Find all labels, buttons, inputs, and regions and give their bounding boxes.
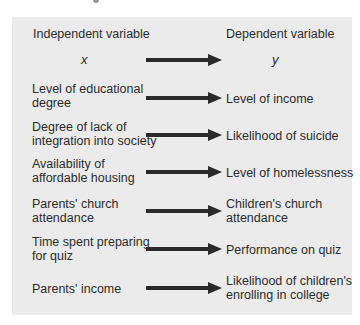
dependent-variable-cell: Likelihood of children's enrolling in co…	[226, 274, 352, 302]
cropped-heading-remnant	[93, 0, 99, 3]
independent-variable-cell: Degree of lack of integration into socie…	[32, 120, 156, 148]
independent-line-1: Level of educational	[32, 82, 143, 96]
symbol-y: y	[272, 53, 279, 67]
arrow-right-icon	[146, 54, 222, 66]
arrow-right-icon	[146, 166, 222, 178]
independent-variable-cell: Parents' income	[32, 282, 121, 296]
independent-variable-header: Independent variable	[33, 27, 150, 41]
dependent-line-1: Performance on quiz	[226, 243, 341, 257]
dependent-variable-cell: Level of income	[226, 92, 314, 106]
dependent-variable-cell: Level of homelessness	[226, 166, 353, 180]
independent-line-2: degree	[32, 96, 143, 110]
dependent-variable-cell: Likelihood of suicide	[226, 129, 339, 143]
dependent-line-2: enrolling in college	[226, 288, 352, 302]
variables-diagram-panel: Independent variable Dependent variable …	[12, 17, 352, 315]
dependent-line-1: Children's church	[226, 197, 322, 211]
dependent-variable-header: Dependent variable	[226, 27, 334, 41]
independent-line-1: Parents' income	[32, 282, 121, 296]
arrow-right-icon	[146, 129, 222, 141]
dependent-line-1: Likelihood of children's	[226, 274, 352, 288]
independent-variable-cell: Parents' church attendance	[32, 197, 118, 225]
arrow-right-icon	[146, 205, 222, 217]
independent-line-2: integration into society	[32, 134, 156, 148]
symbol-x: x	[81, 53, 88, 67]
arrow-right-icon	[146, 282, 222, 294]
independent-variable-cell: Time spent preparing for quiz	[32, 235, 150, 263]
dependent-line-1: Level of homelessness	[226, 166, 353, 180]
independent-line-2: affordable housing	[32, 171, 135, 185]
independent-line-2: for quiz	[32, 249, 150, 263]
dependent-line-1: Level of income	[226, 92, 314, 106]
arrow-right-icon	[146, 243, 222, 255]
independent-line-1: Time spent preparing	[32, 235, 150, 249]
independent-line-1: Parents' church	[32, 197, 118, 211]
dependent-variable-cell: Children's church attendance	[226, 197, 322, 225]
independent-variable-cell: Level of educational degree	[32, 82, 143, 110]
dependent-line-2: attendance	[226, 211, 322, 225]
arrow-right-icon	[146, 92, 222, 104]
independent-line-1: Degree of lack of	[32, 120, 156, 134]
independent-variable-cell: Availability of affordable housing	[32, 157, 135, 185]
independent-line-2: attendance	[32, 211, 118, 225]
dependent-line-1: Likelihood of suicide	[226, 129, 339, 143]
independent-line-1: Availability of	[32, 157, 135, 171]
dependent-variable-cell: Performance on quiz	[226, 243, 341, 257]
